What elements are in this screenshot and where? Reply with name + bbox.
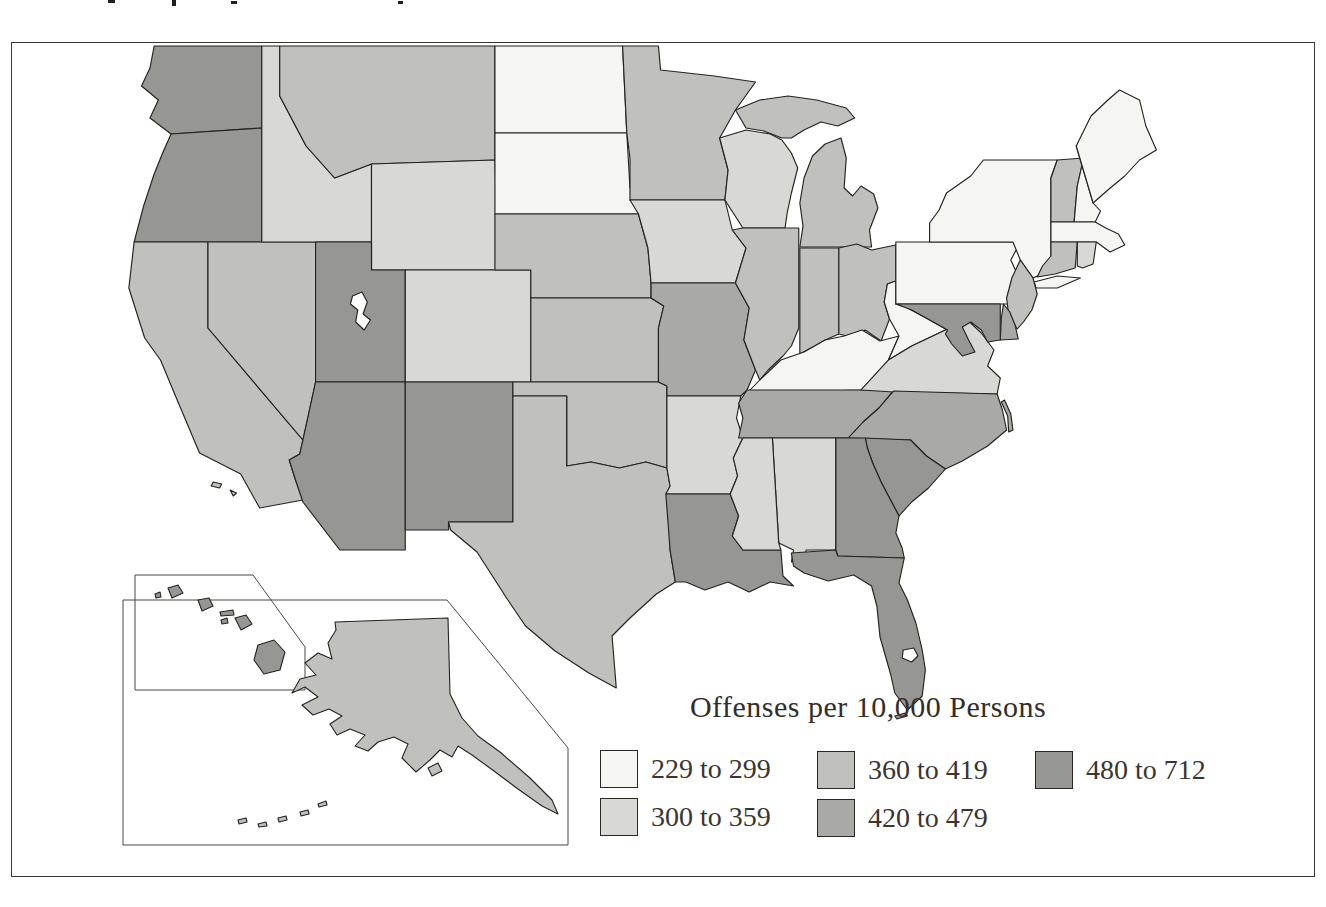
state-missouri[interactable] xyxy=(651,283,755,396)
legend-item-class-4: 420 to 479 xyxy=(817,799,988,837)
state-colorado[interactable] xyxy=(405,270,531,382)
state-wyoming[interactable] xyxy=(371,160,498,270)
state-south-dakota[interactable] xyxy=(495,133,642,214)
state-kansas[interactable] xyxy=(531,298,664,382)
legend-item-class-2: 300 to 359 xyxy=(600,798,771,836)
state-rhode-island[interactable] xyxy=(1077,242,1096,268)
legend-swatch-class-1 xyxy=(600,750,638,788)
legend-label-class-3: 360 to 419 xyxy=(868,751,988,789)
state-alabama[interactable] xyxy=(772,438,835,562)
legend-item-class-3: 360 to 419 xyxy=(817,751,988,789)
page: { "figure": { "type": "choropleth-map", … xyxy=(0,0,1326,907)
state-north-dakota[interactable] xyxy=(495,46,627,133)
legend-label-class-4: 420 to 479 xyxy=(868,799,988,837)
legend-label-class-1: 229 to 299 xyxy=(651,750,771,788)
state-oregon[interactable] xyxy=(134,128,262,242)
legend-label-class-2: 300 to 359 xyxy=(651,798,771,836)
legend-swatch-class-2 xyxy=(600,798,638,836)
state-alaska[interactable] xyxy=(238,618,558,827)
state-wisconsin[interactable] xyxy=(720,130,798,228)
legend-swatch-class-4 xyxy=(817,799,855,837)
state-mississippi[interactable] xyxy=(730,438,781,550)
state-arkansas[interactable] xyxy=(666,396,743,494)
state-hawaii[interactable] xyxy=(155,585,285,674)
legend-item-class-1: 229 to 299 xyxy=(600,750,771,788)
legend-title: Offenses per 10,000 Persons xyxy=(648,690,1088,724)
legend-item-class-5: 480 to 712 xyxy=(1035,751,1206,789)
legend-label-class-5: 480 to 712 xyxy=(1086,751,1206,789)
state-maine[interactable] xyxy=(1076,90,1156,203)
legend-swatch-class-5 xyxy=(1035,751,1073,789)
mainland-states xyxy=(129,46,1157,719)
state-washington[interactable] xyxy=(142,46,262,134)
legend-swatch-class-3 xyxy=(817,751,855,789)
state-pennsylvania[interactable] xyxy=(896,242,1020,304)
state-new-mexico[interactable] xyxy=(405,382,513,530)
